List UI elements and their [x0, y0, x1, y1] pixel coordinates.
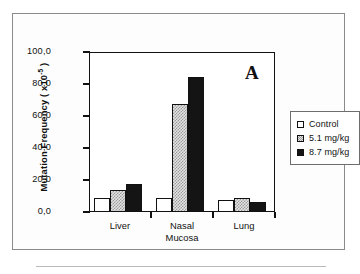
- x-axis-tick-label-line: Mucosa: [137, 232, 227, 244]
- y-axis-tick: [83, 179, 90, 180]
- bar-5-1-mg-kg-liver: [110, 190, 126, 212]
- y-axis-tick: [83, 147, 90, 148]
- x-axis-group-separator: [150, 212, 151, 218]
- y-axis-title-exponent: -5: [37, 69, 44, 75]
- y-axis-tick: [83, 51, 90, 52]
- bar-8-7-mg-kg-liver: [126, 184, 142, 212]
- x-axis-tick-label-line: Lung: [199, 220, 289, 232]
- x-axis-group-separator: [212, 212, 213, 218]
- y-axis-tick-label: 40,0: [5, 143, 51, 152]
- bar-8-7-mg-kg-nasal-mucosa: [188, 77, 204, 212]
- x-axis-tick-label: Lung: [199, 220, 289, 232]
- y-axis-tick: [83, 211, 90, 212]
- panel-letter: A: [245, 62, 259, 84]
- y-axis-tick-label: 80,0: [5, 79, 51, 88]
- bar-control-lung: [218, 200, 234, 212]
- legend-swatch-icon: [297, 135, 304, 142]
- legend-item-label: 8.7 mg/kg: [309, 147, 349, 157]
- figure-frame: Mutation Frequency ( x10-5 ) 0,020,040,0…: [12, 13, 345, 250]
- bar-control-liver: [94, 198, 110, 212]
- y-axis-tick-label: 0,0: [5, 207, 51, 216]
- y-axis-tick: [83, 115, 90, 116]
- y-axis-tick-label: 60,0: [5, 111, 51, 120]
- legend-item-label: Control: [309, 119, 339, 129]
- legend-item-label: 5.1 mg/kg: [309, 133, 349, 143]
- y-axis-tick-label: 100,0: [5, 47, 51, 56]
- plot-right-border: [274, 52, 275, 213]
- bar-5-1-mg-kg-nasal-mucosa: [172, 104, 188, 212]
- caption-divider: [36, 266, 326, 267]
- legend-item: Control: [297, 117, 353, 131]
- bar-5-1-mg-kg-lung: [234, 198, 250, 212]
- plot-top-border: [89, 52, 275, 53]
- chart-legend: Control5.1 mg/kg8.7 mg/kg: [290, 111, 360, 165]
- bar-control-nasal-mucosa: [156, 198, 172, 212]
- y-axis-tick-label: 20,0: [5, 175, 51, 184]
- y-axis-title-suffix: ): [38, 63, 49, 69]
- legend-swatch-icon: [297, 149, 304, 156]
- x-axis-end-tick: [274, 212, 275, 218]
- legend-item: 8.7 mg/kg: [297, 145, 353, 159]
- legend-swatch-icon: [297, 121, 304, 128]
- y-axis-tick: [83, 83, 90, 84]
- legend-item: 5.1 mg/kg: [297, 131, 353, 145]
- bar-8-7-mg-kg-lung: [250, 202, 266, 212]
